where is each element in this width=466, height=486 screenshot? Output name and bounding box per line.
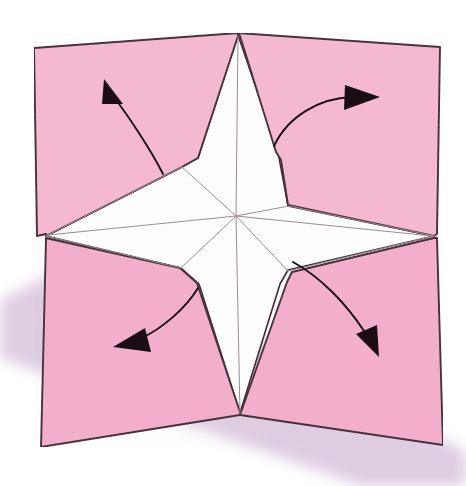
- origami-diagram: [0, 0, 466, 486]
- origami-illustration: [0, 0, 466, 486]
